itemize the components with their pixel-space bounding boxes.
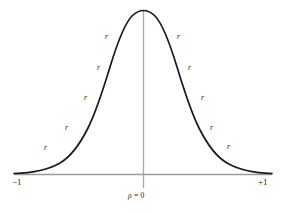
curve-label-r: r — [65, 124, 68, 132]
axis-center-label: ρ = 0 — [128, 192, 144, 200]
rho-relation: = 0 — [132, 191, 145, 200]
curve-label-r: r — [84, 94, 87, 102]
curve-label-r: r — [227, 143, 230, 151]
curve-label-r: r — [188, 64, 191, 72]
curve-label-r: r — [210, 124, 213, 132]
curve-label-r: r — [44, 144, 47, 152]
curve-label-r: r — [201, 94, 204, 102]
curve-label-r: r — [105, 33, 108, 41]
correlation-distribution-figure: r r r r r r r r r r −1 +1 ρ = 0 — [0, 0, 286, 213]
curve-label-r: r — [97, 64, 100, 72]
axis-tick-label-right: +1 — [258, 178, 268, 187]
curve-label-r: r — [177, 33, 180, 41]
distribution-plot — [0, 0, 286, 213]
axis-tick-label-left: −1 — [12, 178, 22, 187]
